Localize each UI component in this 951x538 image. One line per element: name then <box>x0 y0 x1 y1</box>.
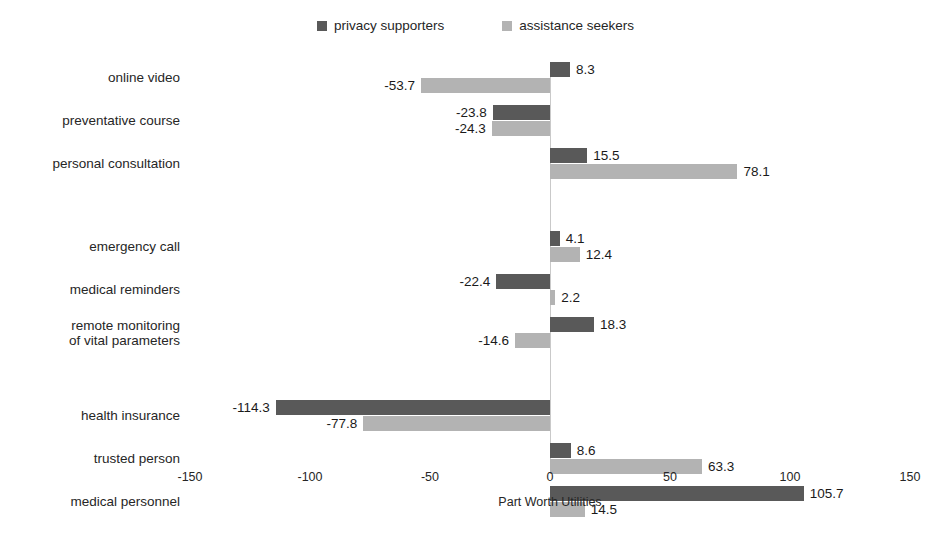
x-axis-tick: 150 <box>900 470 921 484</box>
bar-row: 2.2 <box>190 290 910 305</box>
category-label: health insurance <box>0 408 180 423</box>
bar-row: -114.3 <box>190 400 910 415</box>
bar-row: -53.7 <box>190 78 910 93</box>
bar-assistance-seekers: -24.3 <box>492 121 550 136</box>
category-label: preventative course <box>0 113 180 128</box>
bar-assistance-seekers: -77.8 <box>363 416 550 431</box>
bar-row: -23.8 <box>190 105 910 120</box>
category-label: remote monitoring of vital parameters <box>0 318 180 348</box>
x-axis-tick: 100 <box>780 470 801 484</box>
bar-privacy-supporters: -23.8 <box>493 105 550 120</box>
bar-value-label: -77.8 <box>326 417 357 431</box>
legend-item-privacy-supporters: privacy supporters <box>317 18 444 33</box>
bar-value-label: 8.3 <box>576 63 595 77</box>
category-label: emergency call <box>0 239 180 254</box>
legend-swatch-icon <box>317 21 327 31</box>
bar-assistance-seekers: 78.1 <box>550 164 737 179</box>
bar-privacy-supporters: 15.5 <box>550 148 587 163</box>
x-axis-tick: -150 <box>177 470 202 484</box>
bar-value-label: -53.7 <box>384 79 415 93</box>
bar-value-label: -14.6 <box>478 334 509 348</box>
category-axis-labels: online videopreventative coursepersonal … <box>0 62 180 466</box>
x-axis-tick: -100 <box>297 470 322 484</box>
bar-row: -77.8 <box>190 416 910 431</box>
bar-value-label: 15.5 <box>593 149 619 163</box>
plot-area: 8.3-53.7-23.8-24.315.578.14.112.4-22.42.… <box>190 62 910 466</box>
category-label: medical reminders <box>0 282 180 297</box>
bar-value-label: 78.1 <box>743 165 769 179</box>
x-axis-tick: 50 <box>663 470 677 484</box>
x-axis-title: Part Worth Utilities <box>190 495 910 509</box>
bar-assistance-seekers: -14.6 <box>515 333 550 348</box>
bar-privacy-supporters: 4.1 <box>550 231 560 246</box>
part-worth-utilities-chart: privacy supporters assistance seekers on… <box>0 0 951 538</box>
legend-label: privacy supporters <box>334 18 444 33</box>
bar-row: 8.6 <box>190 443 910 458</box>
bar-value-label: 18.3 <box>600 318 626 332</box>
legend-label: assistance seekers <box>519 18 634 33</box>
bar-privacy-supporters: 18.3 <box>550 317 594 332</box>
bar-assistance-seekers: 2.2 <box>550 290 555 305</box>
bar-row: -22.4 <box>190 274 910 289</box>
bar-row: 15.5 <box>190 148 910 163</box>
bar-value-label: -114.3 <box>232 401 269 415</box>
bar-value-label: -24.3 <box>455 122 486 136</box>
bar-row: 78.1 <box>190 164 910 179</box>
bar-row: -14.6 <box>190 333 910 348</box>
bar-privacy-supporters: 8.3 <box>550 62 570 77</box>
legend-swatch-icon <box>502 21 512 31</box>
x-axis-ticks: -150-100-50050100150 <box>190 470 910 490</box>
bar-value-label: 12.4 <box>586 248 612 262</box>
bar-value-label: 8.6 <box>577 444 596 458</box>
category-label: online video <box>0 70 180 85</box>
bar-row: 18.3 <box>190 317 910 332</box>
bar-value-label: 4.1 <box>566 232 585 246</box>
x-axis-tick: -50 <box>421 470 439 484</box>
bar-privacy-supporters: -22.4 <box>496 274 550 289</box>
legend-item-assistance-seekers: assistance seekers <box>502 18 634 33</box>
bar-row: 4.1 <box>190 231 910 246</box>
bar-assistance-seekers: -53.7 <box>421 78 550 93</box>
x-axis-tick: 0 <box>547 470 554 484</box>
bar-value-label: -22.4 <box>459 275 490 289</box>
bar-privacy-supporters: -114.3 <box>276 400 550 415</box>
bar-privacy-supporters: 8.6 <box>550 443 571 458</box>
category-label: medical personnel <box>0 494 180 509</box>
bar-row: -24.3 <box>190 121 910 136</box>
bar-assistance-seekers: 12.4 <box>550 247 580 262</box>
category-label: personal consultation <box>0 156 180 171</box>
bar-row: 8.3 <box>190 62 910 77</box>
chart-legend: privacy supporters assistance seekers <box>0 18 951 33</box>
category-label: trusted person <box>0 451 180 466</box>
bar-row: 12.4 <box>190 247 910 262</box>
bar-value-label: 2.2 <box>561 291 580 305</box>
bar-value-label: -23.8 <box>456 106 487 120</box>
